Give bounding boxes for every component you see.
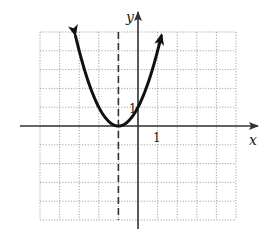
y-axis-label: y bbox=[125, 9, 135, 25]
y-tick-label-1: 1 bbox=[129, 102, 137, 116]
x-axis-label: x bbox=[249, 132, 257, 148]
parabola-graph: y x 1 1 bbox=[0, 0, 265, 231]
axes bbox=[20, 12, 258, 229]
x-tick-label-1: 1 bbox=[153, 131, 161, 145]
